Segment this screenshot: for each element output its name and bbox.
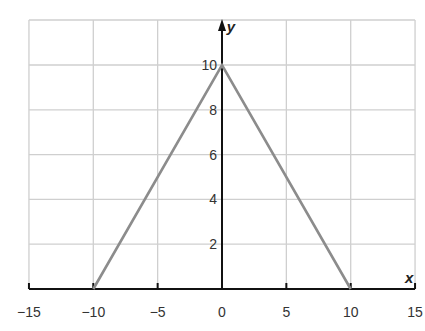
y-tick-label: 10 [201,57,217,73]
line-chart: −15−10−5051015246810xy [0,0,425,331]
x-tick-label: 5 [282,304,290,320]
x-tick-label: −10 [81,304,105,320]
x-tick-label: 10 [343,304,359,320]
y-tick-label: 6 [209,147,217,163]
x-tick-label: −15 [17,304,41,320]
x-tick-label: −5 [150,304,166,320]
tick-labels: −15−10−5051015246810xy [17,18,423,320]
y-axis-label: y [226,18,236,35]
y-tick-label: 4 [209,191,217,207]
y-axis-arrow-icon [218,19,226,31]
x-tick-label: 15 [407,304,423,320]
y-tick-label: 2 [209,236,217,252]
x-axis-label: x [404,269,414,286]
y-tick-label: 8 [209,102,217,118]
x-tick-label: 0 [218,304,226,320]
